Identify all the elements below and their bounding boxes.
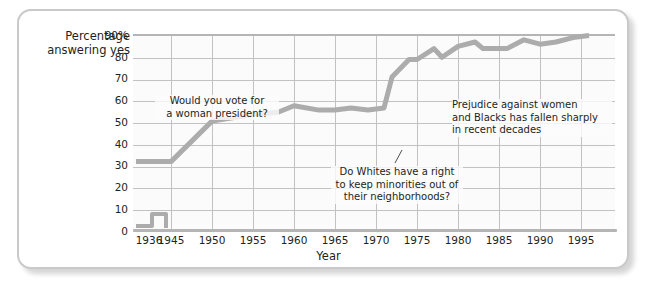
annotation-whites-neighborhoods: Do Whites have a right to keep minoritie… xyxy=(331,166,463,204)
annotation-woman-president: Would you vote for a woman president? xyxy=(155,95,279,120)
series-layer xyxy=(0,0,657,283)
annotation-prejudice-summary: Prejudice against women and Blacks has f… xyxy=(452,99,612,137)
chart-figure: Percentage answering yes 90% 80 70 60 50… xyxy=(0,0,657,283)
leader-line-whites-neighborhoods xyxy=(395,150,402,163)
axis-break-symbol xyxy=(136,214,166,228)
